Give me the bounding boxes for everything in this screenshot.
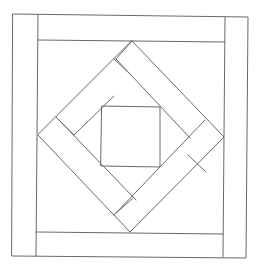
ul-band-inner-edge <box>74 96 114 135</box>
ll-band-end-cap <box>114 198 133 215</box>
bottom-strip-inner-edge <box>36 232 223 234</box>
left-strip-inner-edge <box>36 15 38 256</box>
outer-square <box>12 14 248 258</box>
tr-band-end-cap <box>116 41 132 59</box>
diamond-outline <box>38 41 224 232</box>
quilt-block-diagram <box>0 0 256 271</box>
diagram-lines <box>12 14 248 258</box>
center-square <box>101 106 160 167</box>
ll-band-inner-edge <box>56 117 136 200</box>
tr-band-cap-2 <box>114 59 132 76</box>
